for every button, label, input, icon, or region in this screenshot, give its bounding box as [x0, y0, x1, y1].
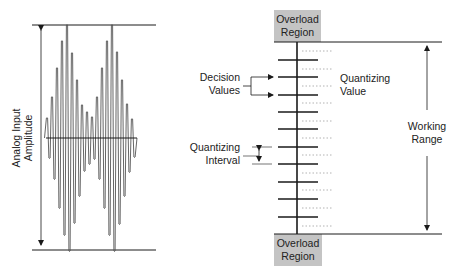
analog-waveform-panel: Analog Input Amplitude — [10, 25, 156, 252]
decision-ticks — [278, 60, 318, 217]
quantizing-interval-label-line2: Interval — [206, 154, 240, 166]
overload-bottom-label-line1: Overload — [277, 237, 320, 249]
decision-values-label-line2: Values — [209, 84, 240, 96]
overload-top-label-line1: Overload — [276, 13, 319, 25]
y-axis-label-line1: Analog Input — [10, 108, 22, 167]
working-range-label-line1: Working — [408, 120, 446, 132]
decision-bracket — [243, 77, 251, 95]
overload-top-label-line2: Region — [281, 26, 314, 38]
working-range-label-line2: Range — [412, 133, 443, 145]
y-axis-label: Analog Input Amplitude — [10, 108, 34, 167]
quantizing-value-label-line2: Value — [340, 85, 366, 97]
quantizing-value-label-line1: Quantizing — [340, 72, 390, 84]
decision-values-label-line1: Decision — [200, 71, 240, 83]
quantizer-panel: Overload Region Overload Region Decision… — [190, 10, 447, 266]
overload-bottom-label-line2: Region — [281, 250, 314, 262]
y-axis-label-line2: Amplitude — [22, 115, 34, 162]
quantization-diagram: Analog Input Amplitude Overload Region O… — [0, 0, 457, 280]
quantizing-interval-label-line1: Quantizing — [190, 141, 240, 153]
